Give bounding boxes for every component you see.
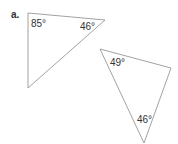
triangle-2-angle-bottom: 46° — [137, 114, 152, 125]
diagram-canvas: a. 85° 46° 49° 46° — [0, 0, 178, 144]
triangle-1-angle-top-left: 85° — [31, 18, 46, 29]
triangle-2: 49° 46° — [100, 49, 171, 143]
triangle-2-angle-top-left: 49° — [110, 57, 125, 68]
part-label: a. — [11, 9, 20, 20]
triangle-1: 85° 46° — [28, 13, 105, 88]
triangle-1-angle-right: 46° — [80, 21, 95, 32]
